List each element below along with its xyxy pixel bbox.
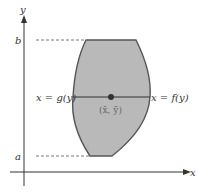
x-axis (10, 169, 191, 175)
centroid-label: (x̄, ȳ) (99, 105, 122, 115)
a-label: a (15, 151, 21, 162)
centroid-dot (108, 94, 114, 100)
y-axis (21, 15, 27, 186)
right-curve-label: x = f(y) (151, 92, 189, 103)
left-curve-label: x = g(y) (36, 92, 76, 103)
x-axis-label: x (190, 167, 196, 178)
y-axis-label: y (19, 4, 26, 15)
region-figure: y x b a x = g(y) x = f(y) (x̄, ȳ) (0, 0, 198, 194)
b-label: b (15, 35, 21, 46)
